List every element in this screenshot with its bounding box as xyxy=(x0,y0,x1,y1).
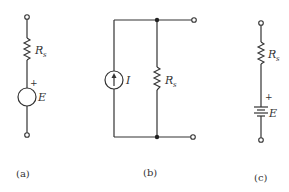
node-b-top xyxy=(155,18,159,22)
terminal-bottom-a xyxy=(25,133,30,138)
polarity-plus-c: + xyxy=(265,92,273,102)
resistor-a-subscript: s xyxy=(43,51,47,59)
resistor-c xyxy=(258,42,264,64)
battery-c xyxy=(254,107,268,116)
caption-b: (b) xyxy=(143,167,157,178)
resistor-b-label: R xyxy=(164,74,173,87)
resistor-c-subscript: s xyxy=(276,55,280,63)
terminal-bottom-c xyxy=(259,138,264,143)
terminal-top-b xyxy=(192,18,197,23)
terminal-top-c xyxy=(259,21,264,26)
panel-b: I R s (b) xyxy=(105,18,196,178)
panel-a: R s + E (a) xyxy=(16,15,47,179)
node-b-bottom xyxy=(155,135,159,139)
resistor-a-label: R xyxy=(34,44,43,57)
resistor-b-subscript: s xyxy=(173,81,177,89)
circuit-figure: R s + E (a) I R s (b) xyxy=(0,0,289,192)
source-a-label: E xyxy=(37,91,46,104)
source-b-label: I xyxy=(125,74,131,87)
panel-c: R s + E (c) xyxy=(254,21,280,183)
resistor-c-label: R xyxy=(267,48,276,61)
arrow-up-icon xyxy=(112,73,117,86)
caption-a: (a) xyxy=(16,168,30,179)
terminal-top-a xyxy=(25,15,30,20)
terminal-bottom-b xyxy=(191,135,196,140)
source-c-label: E xyxy=(268,107,277,120)
resistor-b xyxy=(154,67,160,90)
caption-c: (c) xyxy=(254,172,268,183)
resistor-a xyxy=(24,38,30,60)
polarity-plus-a: + xyxy=(30,78,38,88)
voltage-source-a xyxy=(18,88,36,106)
